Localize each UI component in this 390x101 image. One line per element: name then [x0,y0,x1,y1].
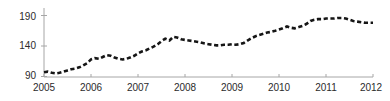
x-tick-label-2012: 2012 [354,82,388,93]
data-series-line [44,18,373,74]
y-tick-label-90: 90 [10,70,36,81]
x-tick-label-2007: 2007 [121,82,155,93]
x-tick-label-2009: 2009 [215,82,249,93]
y-tick-label-190: 190 [10,11,36,22]
y-tick-label-140: 140 [10,40,36,51]
x-tick-label-2008: 2008 [168,82,202,93]
x-tick-label-2005: 2005 [27,82,61,93]
x-tick-label-2006: 2006 [74,82,108,93]
x-tick-label-2011: 2011 [309,82,343,93]
x-tick-label-2010: 2010 [262,82,296,93]
line-chart: 19014090 2005200620072008200920102011201… [0,0,390,101]
